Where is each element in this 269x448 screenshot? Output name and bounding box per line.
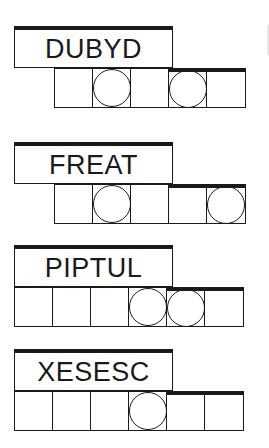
circle-marker-icon	[169, 70, 207, 108]
answer-cell-1[interactable]	[14, 287, 54, 327]
answer-cell-4-circled[interactable]	[128, 287, 168, 327]
scrambled-word: XESESC	[14, 349, 173, 391]
circle-marker-icon	[129, 288, 167, 326]
answer-cell-5-circled[interactable]	[206, 184, 246, 224]
answer-cell-3[interactable]	[130, 184, 170, 224]
answer-cell-3[interactable]	[90, 287, 130, 327]
answer-cell-6[interactable]	[204, 287, 244, 327]
answer-cell-3[interactable]	[90, 391, 130, 431]
scrambled-word: DUBYD	[14, 26, 173, 68]
answer-cells	[54, 184, 246, 224]
cropped-edge-mark	[267, 25, 269, 55]
answer-cell-4[interactable]	[168, 184, 208, 224]
circle-marker-icon	[93, 69, 131, 107]
answer-cell-2-circled[interactable]	[92, 184, 132, 224]
answer-cells	[14, 391, 244, 431]
answer-cell-5[interactable]	[166, 391, 206, 431]
answer-cells	[14, 287, 244, 327]
answer-cell-4-circled[interactable]	[168, 68, 208, 108]
answer-cell-4-circled[interactable]	[128, 391, 168, 431]
answer-cell-5-circled[interactable]	[166, 287, 206, 327]
answer-cell-5[interactable]	[206, 68, 246, 108]
scrambled-word: FREAT	[14, 142, 173, 184]
circle-marker-icon	[167, 289, 205, 327]
circle-marker-icon	[129, 392, 167, 430]
answer-cell-2[interactable]	[52, 287, 92, 327]
circle-marker-icon	[93, 185, 131, 223]
scrambled-word: PIPTUL	[14, 245, 173, 287]
answer-cell-3[interactable]	[130, 68, 170, 108]
answer-cell-2[interactable]	[52, 391, 92, 431]
answer-cell-2-circled[interactable]	[92, 68, 132, 108]
answer-cells	[54, 68, 246, 108]
answer-cell-1[interactable]	[54, 184, 94, 224]
answer-cell-6[interactable]	[204, 391, 244, 431]
circle-marker-icon	[207, 186, 245, 224]
answer-cell-1[interactable]	[14, 391, 54, 431]
answer-cell-1[interactable]	[54, 68, 94, 108]
